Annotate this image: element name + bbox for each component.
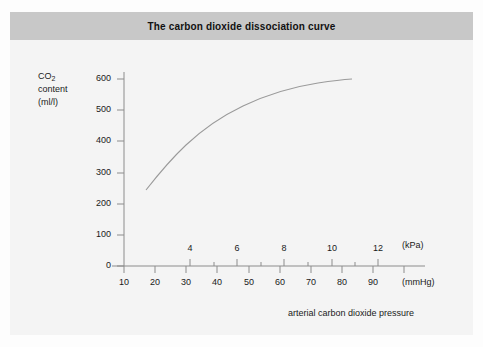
kpa-tick-label-4: 4 [187, 243, 192, 253]
mmhg-tick-label-80: 80 [337, 277, 347, 287]
mmhg-tick-label-50: 50 [244, 277, 254, 287]
plot-panel [10, 40, 473, 335]
y-axis-label-line2: content [38, 83, 68, 96]
mmhg-tick-label-70: 70 [306, 277, 316, 287]
mmhg-tick-label-20: 20 [150, 277, 160, 287]
y-tick-label-100: 100 [85, 229, 111, 239]
y-tick-label-300: 300 [85, 167, 111, 177]
chart-page: The carbon dioxide dissociation curve CO… [0, 0, 483, 347]
mmhg-tick-label-40: 40 [212, 277, 222, 287]
y-axis-label: CO2 content (ml/l) [38, 70, 68, 109]
mmhg-tick-label-90: 90 [368, 277, 378, 287]
mmhg-tick-label-60: 60 [275, 277, 285, 287]
kpa-tick-label-8: 8 [281, 243, 286, 253]
kpa-tick-label-12: 12 [373, 243, 383, 253]
y-tick-label-500: 500 [85, 104, 111, 114]
mmhg-unit-label: (mmHg) [402, 277, 435, 287]
y-tick-label-200: 200 [85, 198, 111, 208]
y-tick-label-0: 0 [85, 260, 111, 270]
y-tick-label-600: 600 [85, 73, 111, 83]
x-axis-title: arterial carbon dioxide pressure [288, 308, 414, 318]
mmhg-tick-label-10: 10 [119, 277, 129, 287]
y-axis-label-line3: (ml/l) [38, 96, 68, 109]
title-band: The carbon dioxide dissociation curve [10, 12, 473, 40]
kpa-tick-label-10: 10 [327, 243, 337, 253]
mmhg-tick-label-30: 30 [181, 277, 191, 287]
y-tick-label-400: 400 [85, 135, 111, 145]
kpa-unit-label: (kPa) [402, 240, 424, 250]
kpa-tick-label-6: 6 [234, 243, 239, 253]
co2-subscript: 2 [52, 75, 56, 82]
y-axis-label-line1: CO2 [38, 70, 68, 83]
page-title: The carbon dioxide dissociation curve [148, 21, 336, 32]
